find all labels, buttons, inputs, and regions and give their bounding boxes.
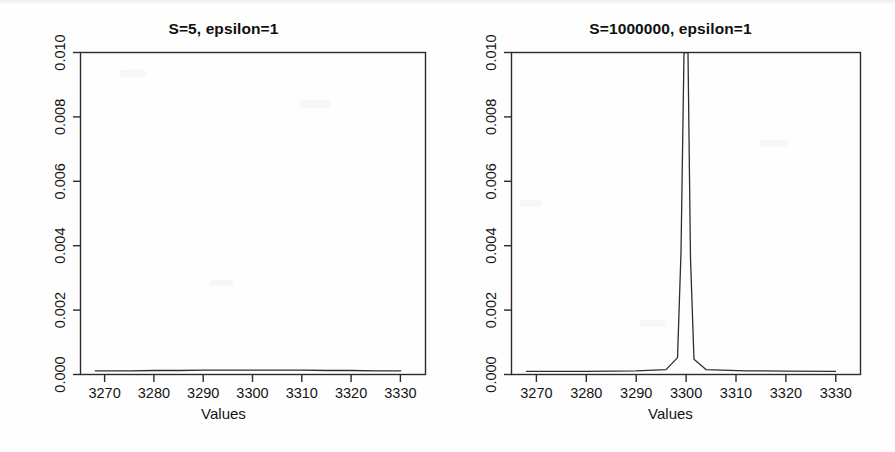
plot-area-left: 0.000 0.002 0.004 0.006 0.008 0.010 3270 bbox=[0, 0, 447, 452]
y-tick-label: 0.008 bbox=[483, 99, 499, 135]
plot-area-right: 0.000 0.002 0.004 0.006 0.008 0.010 3270… bbox=[447, 0, 895, 452]
x-tick-label: 3300 bbox=[670, 385, 702, 401]
x-tick-label: 3320 bbox=[770, 385, 802, 401]
x-tick-label: 3270 bbox=[520, 385, 552, 401]
y-tick-label: 0.004 bbox=[483, 228, 499, 264]
x-tick-label: 3330 bbox=[820, 385, 852, 401]
y-tick-label: 0.008 bbox=[52, 99, 68, 135]
data-series-line-right bbox=[526, 53, 835, 372]
y-tick-label: 0.004 bbox=[52, 228, 68, 264]
data-series-line-left bbox=[95, 370, 401, 371]
x-tick-label: 3310 bbox=[286, 385, 318, 401]
y-tick-label: 0.006 bbox=[483, 163, 499, 199]
plot-frame-left bbox=[81, 53, 426, 375]
x-tick-label: 3310 bbox=[720, 385, 752, 401]
x-axis-tick-labels-right: 3270 3280 3290 3300 3310 3320 3330 bbox=[520, 385, 852, 401]
y-tick-label: 0.010 bbox=[52, 34, 68, 70]
x-tick-label: 3270 bbox=[88, 385, 120, 401]
y-tick-label: 0.006 bbox=[52, 163, 68, 199]
x-axis-label-left: Values bbox=[0, 405, 447, 422]
x-axis-label-right: Values bbox=[447, 405, 894, 422]
y-tick-label: 0.002 bbox=[52, 292, 68, 328]
y-axis-ticks-left bbox=[73, 53, 81, 375]
x-tick-label: 3300 bbox=[236, 385, 268, 401]
x-tick-label: 3280 bbox=[570, 385, 602, 401]
x-tick-label: 3290 bbox=[620, 385, 652, 401]
x-axis-tick-labels-left: 3270 3280 3290 3300 3310 3320 3330 bbox=[88, 385, 416, 401]
y-tick-label: 0.010 bbox=[483, 34, 499, 70]
y-tick-label: 0.002 bbox=[483, 292, 499, 328]
plot-panel-left: S=5, epsilon=1 0.000 0.002 0.004 0.006 0… bbox=[0, 0, 447, 452]
y-axis-ticks-right bbox=[504, 53, 512, 375]
plot-frame-right bbox=[512, 53, 861, 375]
x-axis-ticks-left bbox=[105, 375, 401, 382]
x-tick-label: 3290 bbox=[187, 385, 219, 401]
x-tick-label: 3330 bbox=[384, 385, 416, 401]
x-axis-ticks-right bbox=[536, 375, 835, 382]
y-axis-tick-labels-left: 0.000 0.002 0.004 0.006 0.008 0.010 bbox=[52, 34, 68, 392]
figure-canvas: S=5, epsilon=1 0.000 0.002 0.004 0.006 0… bbox=[0, 0, 895, 452]
y-axis-tick-labels-right: 0.000 0.002 0.004 0.006 0.008 0.010 bbox=[483, 34, 499, 392]
y-tick-label: 0.000 bbox=[52, 356, 68, 392]
x-tick-label: 3280 bbox=[138, 385, 170, 401]
plot-panel-right: S=1000000, epsilon=1 0.000 0.002 0.004 bbox=[447, 0, 894, 452]
y-tick-label: 0.000 bbox=[483, 356, 499, 392]
x-tick-label: 3320 bbox=[335, 385, 367, 401]
